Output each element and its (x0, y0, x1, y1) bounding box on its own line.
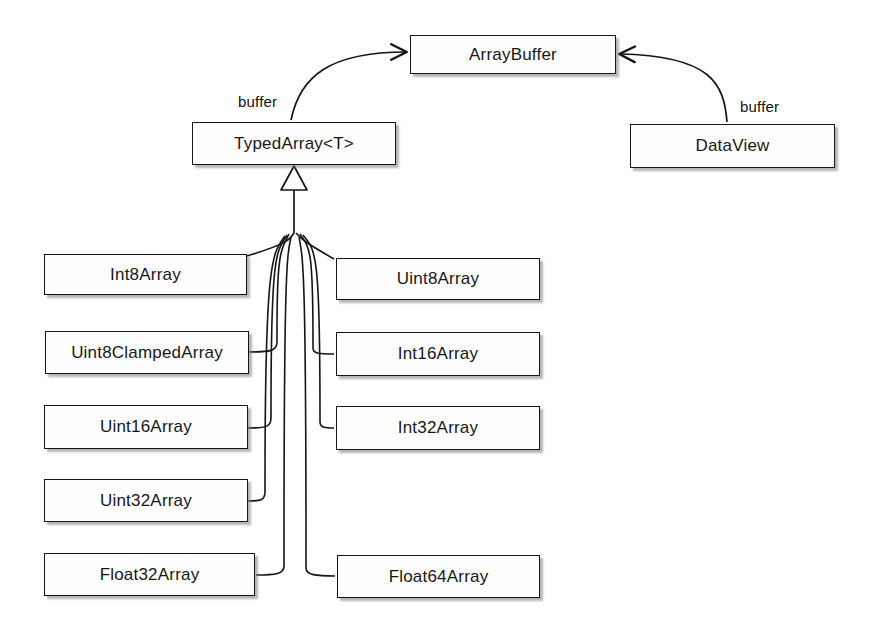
edge-generalization-float64array (299, 237, 335, 576)
connector-layer (0, 0, 869, 639)
class-label-arraybuffer: ArrayBuffer (469, 46, 557, 64)
class-label-uint16array: Uint16Array (100, 418, 192, 436)
edge-generalization-uint8array (296, 233, 334, 259)
class-box-float32array[interactable]: Float32Array (44, 553, 255, 596)
class-box-float64array[interactable]: Float64Array (337, 555, 540, 598)
class-diagram-canvas: buffer buffer ArrayBuffer TypedArray<T> … (0, 0, 869, 639)
class-label-uint8array: Uint8Array (397, 270, 479, 288)
class-label-float32array: Float32Array (100, 566, 200, 584)
edge-generalization-int16array (300, 234, 334, 354)
class-label-uint8clampedarray: Uint8ClampedArray (71, 344, 223, 362)
class-label-uint32array: Uint32Array (100, 492, 192, 510)
class-box-typedarray[interactable]: TypedArray<T> (192, 122, 396, 165)
class-label-float64array: Float64Array (389, 568, 489, 586)
edge-generalization-uint32array (248, 236, 285, 501)
class-box-uint8clampedarray[interactable]: Uint8ClampedArray (45, 331, 249, 374)
edge-typedarray-to-arraybuffer (291, 52, 406, 120)
class-label-int8array: Int8Array (110, 266, 181, 284)
edge-generalization-float32array (256, 237, 291, 575)
class-box-uint8array[interactable]: Uint8Array (336, 258, 540, 300)
edge-generalization-uint8clampedarray (249, 234, 289, 352)
edge-label-buffer-right: buffer (740, 98, 779, 115)
class-box-arraybuffer[interactable]: ArrayBuffer (410, 35, 616, 74)
class-box-uint32array[interactable]: Uint32Array (44, 479, 248, 522)
class-label-typedarray: TypedArray<T> (234, 135, 354, 153)
edge-generalization-int8array (247, 233, 294, 256)
edge-generalization-uint16array (248, 235, 287, 428)
edge-generalization-int32array (303, 235, 334, 428)
class-box-dataview[interactable]: DataView (630, 124, 835, 168)
edge-dataview-to-arraybuffer (620, 54, 727, 122)
class-label-int16array: Int16Array (398, 345, 478, 363)
class-label-int32array: Int32Array (398, 419, 478, 437)
class-box-int8array[interactable]: Int8Array (44, 254, 247, 295)
inheritance-triangle-icon (281, 166, 307, 190)
edge-label-buffer-left: buffer (238, 93, 277, 110)
class-box-uint16array[interactable]: Uint16Array (44, 405, 248, 449)
class-box-int16array[interactable]: Int16Array (336, 332, 540, 376)
class-label-dataview: DataView (695, 137, 769, 155)
class-box-int32array[interactable]: Int32Array (336, 406, 540, 450)
